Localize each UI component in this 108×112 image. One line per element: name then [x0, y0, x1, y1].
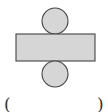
lateral-rectangle	[16, 34, 95, 61]
top-circle	[42, 8, 68, 34]
answer-close-paren: )	[97, 96, 104, 112]
bottom-circle	[42, 61, 68, 87]
cylinder-net-diagram	[0, 0, 108, 112]
answer-open-paren: (	[4, 96, 11, 112]
